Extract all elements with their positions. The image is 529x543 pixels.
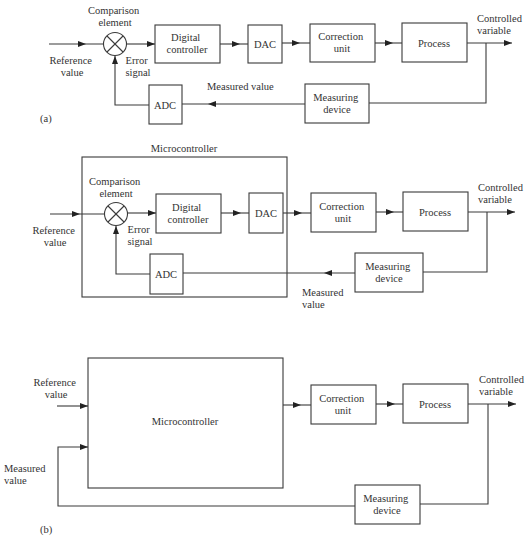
arrow-icon [80, 403, 88, 409]
comparison-element-symbol [104, 33, 127, 56]
adc-label: ADC [155, 269, 177, 280]
microcontroller-label: Microcontroller [152, 416, 219, 427]
arrow-icon [507, 209, 515, 215]
error-signal-label: Error signal [125, 55, 150, 78]
digital-controller-label: Digital controller [168, 202, 209, 225]
arrow-icon [504, 40, 512, 46]
process-label: Process [418, 38, 450, 49]
arrow-icon [113, 226, 119, 234]
diagram-b-label: (b) [40, 524, 53, 536]
error-signal-label: Error signal [127, 224, 152, 247]
control-system-diagrams: Reference value Comparison element Error… [0, 0, 529, 543]
measured-value-label: Measured value [207, 81, 274, 92]
arrow-icon [385, 40, 393, 46]
arrow-icon [294, 210, 302, 216]
process-label: Process [419, 399, 451, 410]
reference-value-label: Reference value [49, 55, 94, 78]
diagram-a: Reference value Comparison element Error… [40, 5, 525, 125]
controlled-variable-label: Controlled variable [477, 13, 525, 36]
dac-label: DAC [255, 208, 277, 219]
controlled-variable-label: Controlled variable [479, 374, 527, 397]
arrow-icon [508, 401, 516, 407]
arrow-icon [233, 210, 241, 216]
arrow-icon [147, 41, 155, 47]
digital-controller-label: Digital controller [167, 32, 208, 55]
arrow-icon [80, 444, 88, 450]
diagram-a-label: (a) [40, 113, 52, 125]
comparison-element-symbol [105, 203, 128, 226]
arrow-icon [72, 211, 80, 217]
reference-value-label: Reference value [32, 225, 77, 248]
reference-value-label: Reference value [33, 377, 78, 400]
arrow-icon [232, 41, 240, 47]
process-label: Process [419, 207, 451, 218]
arrow-icon [292, 40, 300, 46]
comparison-element-label: Comparison element [89, 176, 143, 199]
microcontroller-label: Microcontroller [151, 143, 218, 154]
measured-value-label: Measured value [302, 287, 346, 310]
dac-label: DAC [254, 39, 276, 50]
arrow-icon [387, 401, 395, 407]
measured-value-label: Measured value [4, 463, 48, 486]
arrow-icon [386, 209, 394, 215]
controlled-variable-label: Controlled variable [478, 182, 526, 205]
comparison-element-label: Comparison element [88, 5, 142, 28]
diagram-microcontroller: Microcontroller Reference value Comparis… [32, 143, 525, 310]
arrow-icon [208, 101, 216, 107]
arrow-icon [148, 210, 156, 216]
arrow-icon [78, 41, 86, 47]
diagram-b: Microcontroller Reference value Measured… [4, 358, 527, 536]
adc-label: ADC [154, 100, 176, 111]
arrow-icon [112, 56, 118, 64]
arrow-icon [324, 270, 332, 276]
arrow-icon [293, 402, 301, 408]
